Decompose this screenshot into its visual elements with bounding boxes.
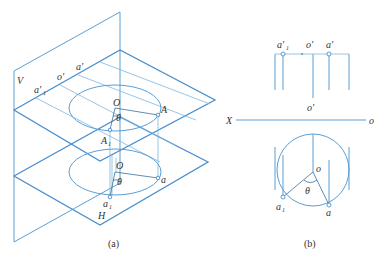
- svg-text:a: a: [326, 207, 331, 218]
- axis-label-X: X: [225, 115, 233, 126]
- svg-text:o': o': [57, 71, 65, 82]
- svg-text:o': o': [307, 102, 315, 113]
- point-a1: [108, 195, 112, 199]
- label-V: V: [17, 75, 25, 86]
- svg-text:o: o: [316, 163, 321, 174]
- projection-diagram: V a' 1 o' a' O A θ A 1 O θ a a 1 H (a): [0, 0, 383, 262]
- svg-text:1: 1: [109, 204, 112, 210]
- svg-text:1: 1: [286, 45, 289, 51]
- svg-text:a: a: [161, 174, 166, 185]
- svg-text:θ: θ: [117, 176, 122, 187]
- svg-text:1: 1: [282, 207, 285, 213]
- svg-text:o': o': [306, 39, 314, 50]
- figure-a: V a' 1 o' a' O A θ A 1 O θ a a 1 H (a): [14, 12, 215, 250]
- svg-text:O: O: [113, 97, 120, 108]
- svg-text:a: a: [276, 201, 281, 212]
- point-a1: [281, 195, 285, 199]
- svg-text:A: A: [160, 104, 168, 115]
- caption-b: (b): [304, 238, 316, 250]
- svg-text:a': a': [277, 39, 285, 50]
- svg-text:a': a': [326, 39, 334, 50]
- svg-text:1: 1: [108, 141, 111, 147]
- point-a: [156, 176, 160, 180]
- point-a-prime: [327, 52, 331, 56]
- svg-text:a: a: [103, 198, 108, 209]
- point-a1-prime: [281, 52, 285, 56]
- label-H: H: [97, 210, 106, 221]
- caption-a: (a): [108, 238, 119, 250]
- svg-text:A: A: [100, 135, 108, 146]
- svg-text:O: O: [116, 160, 123, 171]
- figure-b: a' 1 o' a' o' X o o θ a 1 a (b): [225, 39, 374, 250]
- svg-text:1: 1: [43, 90, 46, 96]
- svg-text:a': a': [34, 84, 42, 95]
- svg-text:θ: θ: [305, 185, 310, 196]
- axis-label-o: o: [369, 115, 374, 126]
- svg-text:a': a': [76, 61, 84, 72]
- svg-text:θ: θ: [116, 112, 121, 123]
